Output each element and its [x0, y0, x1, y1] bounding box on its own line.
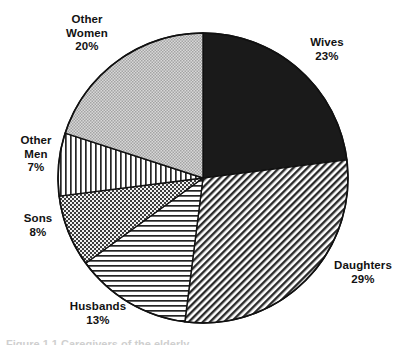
pie-label-other-men-line2: Men	[8, 148, 64, 162]
pie-slice-group	[58, 33, 348, 323]
pie-label-other-women: Other Women 20%	[52, 13, 122, 54]
pie-chart-figure: Other Women 20% Wives 23% Other Men 7% S…	[0, 0, 406, 345]
pie-label-daughters-line1: Daughters	[324, 259, 402, 273]
pie-label-husbands-value: 13%	[57, 314, 139, 328]
pie-slice-daughters	[185, 160, 348, 323]
pie-label-husbands-line1: Husbands	[57, 300, 139, 314]
pie-label-husbands: Husbands 13%	[57, 300, 139, 327]
pie-label-other-men-value: 7%	[8, 161, 64, 175]
figure-caption: Figure 1.1 Caregivers of the elderly	[6, 338, 346, 345]
pie-label-sons-line1: Sons	[12, 212, 64, 226]
pie-label-sons-value: 8%	[12, 226, 64, 240]
pie-label-daughters: Daughters 29%	[324, 259, 402, 286]
pie-label-other-men-line1: Other	[8, 134, 64, 148]
pie-label-other-women-line2: Women	[52, 27, 122, 41]
pie-label-daughters-value: 29%	[324, 273, 402, 287]
pie-label-sons: Sons 8%	[12, 212, 64, 239]
pie-label-wives-line1: Wives	[296, 36, 358, 50]
pie-label-wives-value: 23%	[296, 50, 358, 64]
pie-label-other-men: Other Men 7%	[8, 134, 64, 175]
pie-label-other-women-line1: Other	[52, 13, 122, 27]
pie-label-wives: Wives 23%	[296, 36, 358, 63]
pie-label-other-women-value: 20%	[52, 40, 122, 54]
